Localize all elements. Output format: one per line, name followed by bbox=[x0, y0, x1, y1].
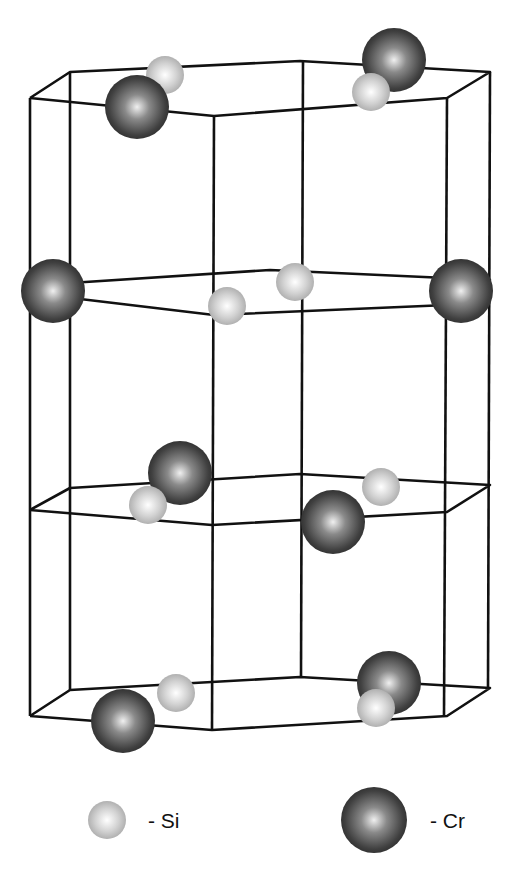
vertical-edge bbox=[444, 98, 447, 716]
si-atom bbox=[276, 263, 314, 301]
vertical-edge bbox=[212, 116, 214, 730]
unit-cell-frame bbox=[30, 61, 490, 730]
si-atom bbox=[157, 674, 195, 712]
middle-hexagon bbox=[30, 270, 490, 315]
si-atom bbox=[357, 689, 395, 727]
legend: - Si - Cr bbox=[88, 787, 465, 853]
vertical-edge bbox=[488, 72, 490, 688]
cr-atom bbox=[301, 490, 365, 554]
legend-si-label: - Si bbox=[148, 809, 180, 832]
legend-si-icon bbox=[88, 801, 126, 839]
crystal-structure-diagram: - Si - Cr bbox=[0, 0, 506, 869]
si-atom bbox=[208, 287, 246, 325]
cr-atom bbox=[429, 259, 493, 323]
si-atom bbox=[362, 468, 400, 506]
cr-atom bbox=[21, 259, 85, 323]
si-atom bbox=[129, 486, 167, 524]
legend-cr-label: - Cr bbox=[430, 809, 465, 832]
lower-hexagon bbox=[30, 474, 490, 525]
cr-atom bbox=[91, 689, 155, 753]
legend-cr-icon bbox=[341, 787, 407, 853]
si-atom bbox=[352, 73, 390, 111]
cr-atom bbox=[105, 75, 169, 139]
atoms bbox=[21, 28, 493, 753]
vertical-edge bbox=[301, 61, 303, 677]
